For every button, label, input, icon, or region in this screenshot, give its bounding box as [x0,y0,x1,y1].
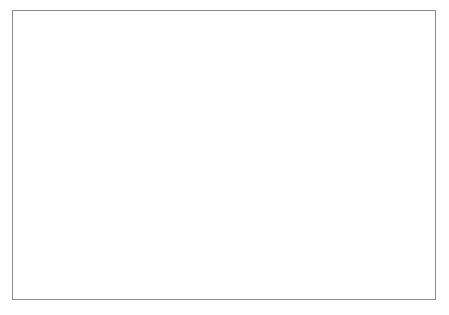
chart-container: 01020 19451955196519751985 Number of Eve… [0,0,449,315]
figure-frame [12,10,436,300]
